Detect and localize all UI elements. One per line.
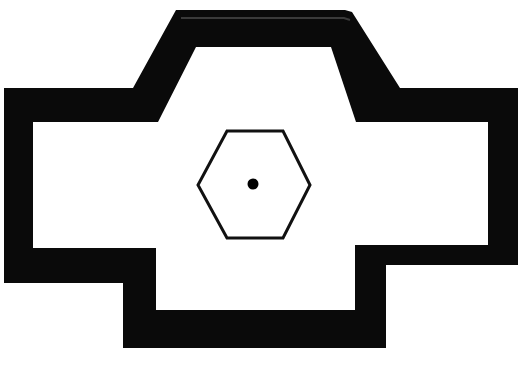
plan-drawing [0,0,524,373]
centre-point-marker [248,179,259,190]
plan-figure [0,0,524,373]
